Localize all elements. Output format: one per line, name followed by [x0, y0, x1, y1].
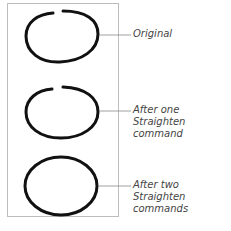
label-text: Original: [133, 28, 172, 40]
label-text: After one Straighten: [133, 104, 231, 128]
label-two-straighten: After two Straighten commands: [133, 179, 231, 215]
label-text: commands: [133, 203, 231, 215]
label-text: command: [133, 128, 231, 140]
twice-straightened-shape: [25, 157, 97, 215]
original-shape: [26, 11, 98, 62]
label-one-straighten: After one Straighten command: [133, 104, 231, 140]
once-straightened-shape: [26, 87, 98, 138]
label-text: After two Straighten: [133, 179, 231, 203]
label-original: Original: [133, 28, 172, 40]
